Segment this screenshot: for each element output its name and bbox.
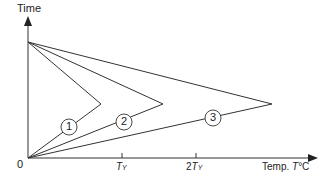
tick-label-ty: TY: [116, 161, 127, 172]
x-axis-arrow-icon: [308, 154, 318, 162]
curve-1-label: 1: [60, 120, 78, 132]
diagram-canvas: [0, 0, 330, 184]
origin-label: 0: [17, 158, 23, 170]
tick-label-2ty: 2TY: [186, 161, 202, 172]
x-axis-label: Temp. T°C: [262, 161, 309, 172]
curve-1: [28, 42, 101, 158]
curve-3-label: 3: [204, 111, 222, 123]
curve-2-label: 2: [115, 115, 133, 127]
y-axis-arrow-icon: [24, 16, 32, 26]
y-axis-label: Time: [17, 2, 41, 14]
curve-3: [28, 42, 272, 158]
